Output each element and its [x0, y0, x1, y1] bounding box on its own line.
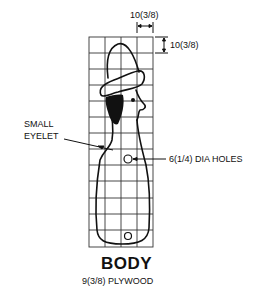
width-dimension-label: 10(3/8)	[130, 10, 159, 20]
height-dimension-marker	[155, 37, 168, 53]
pattern-grid	[89, 37, 153, 247]
width-dimension-marker	[137, 22, 153, 33]
eyelet-leader	[64, 139, 113, 150]
pattern-drawing	[0, 0, 262, 295]
eye-dot	[131, 98, 135, 102]
eyelet-label-line1: SMALL	[24, 119, 54, 129]
dia-hole-lower	[125, 233, 132, 240]
material-label: 9(3/8) PLYWOOD	[82, 276, 153, 286]
holes-leader	[133, 158, 166, 161]
height-dimension-label: 10(3/8)	[170, 40, 199, 50]
dia-hole-upper	[124, 155, 132, 163]
eyelet-label-line2: EYELET	[24, 131, 59, 141]
part-title: BODY	[101, 254, 152, 274]
holes-label: 6(1/4) DIA HOLES	[169, 154, 243, 164]
